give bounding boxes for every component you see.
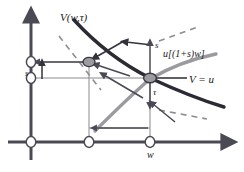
value-function-curve-V-w-tau	[74, 20, 224, 107]
origin-tick	[26, 137, 36, 148]
wage-axis-label: w	[147, 150, 154, 160]
value-function-label: V(w,τ)	[60, 12, 87, 23]
diagram-svg	[0, 0, 244, 172]
arrow-to-new-node-middle	[97, 65, 130, 76]
new-equilibrium-node	[83, 57, 95, 66]
figure-canvas: V(w,τ) u[(1+s)w] V = u s τ s w	[0, 0, 244, 172]
axes-group	[8, 20, 224, 160]
vertical-shift-label: s	[25, 70, 28, 78]
grid-connectors-group	[31, 62, 150, 142]
annotation-arrows-group	[38, 41, 175, 128]
tax-arrow-label: τ	[153, 88, 156, 97]
level-set-label: V = u	[189, 74, 214, 85]
initial-equilibrium-node	[144, 73, 157, 83]
utility-curve-label: u[(1+s)w]	[163, 49, 205, 59]
y-axis-upper-tick	[26, 57, 35, 68]
x-axis-new-wage-tick	[84, 137, 94, 148]
dashed-guides-group	[59, 27, 207, 119]
subsidy-arrow-label: s	[155, 41, 159, 50]
dashed-upper-right	[159, 27, 198, 41]
x-axis-wage-tick	[145, 137, 155, 148]
arrow-along-dark-curve	[126, 42, 152, 45]
